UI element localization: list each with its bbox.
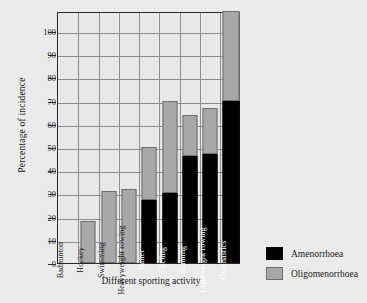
x-axis-title: Different sporting activity [46,276,256,286]
bar-segment-oligomenorrhoea [162,101,177,194]
y-tick-mark-70 [48,102,56,103]
bar-hockey[interactable]: Hockey [78,13,98,263]
bar-running[interactable]: Running [180,13,200,263]
y-tick-mark-50 [48,148,56,149]
y-tick-mark-80 [48,78,56,79]
bar-heavyweight-rowing[interactable]: Heavyweight rowing [119,13,139,263]
legend-label-oligomenorrhoea: Oligomenorrhoea [291,269,358,279]
bar-group: Badminton Hockey Swimming [58,13,239,263]
bar-ballet[interactable]: Ballet [139,13,159,263]
bar-label-running: Running [175,246,190,274]
plot-area: Badminton Hockey Swimming [57,12,240,264]
bar-lightweight-rowing[interactable]: Lightweight rowing [200,13,220,263]
bar-stack-cycling [162,101,177,263]
y-tick-mark-30 [48,194,56,195]
y-tick-mark-90 [48,55,56,56]
bar-cycling[interactable]: Cycling [160,13,180,263]
y-axis-title: Percentage of incidence [17,35,27,215]
y-tick-mark-60 [48,125,56,126]
bar-stack-ballet [142,147,157,263]
bar-badminton[interactable]: Badminton [58,13,78,263]
y-tick-mark-40 [48,171,56,172]
chart-figure: Percentage of incidence 100 90 80 70 60 … [0,0,367,303]
bar-segment-oligomenorrhoea [183,115,198,157]
bar-label-hockey: Hockey [73,247,88,272]
black-square-swatch-icon [266,247,283,260]
bar-segment-oligomenorrhoea [203,108,218,154]
bar-segment-amenorrhoea [222,101,239,263]
bar-label-swimming: Swimming [94,242,109,278]
bar-label-cycling: Cycling [155,247,170,273]
bar-segment-oligomenorrhoea [222,11,239,101]
y-tick-mark-100 [48,32,56,33]
bar-label-badminton: Badminton [53,242,68,278]
bar-label-ballet: Ballet [134,250,149,270]
legend-item-amenorrhoea: Amenorrhoea [266,247,358,260]
legend-item-oligomenorrhoea: Oligomenorrhoea [266,267,358,280]
legend-label-amenorrhoea: Amenorrhoea [291,249,343,259]
grey-square-swatch-icon [266,267,283,280]
y-tick-mark-20 [48,218,56,219]
bar-segment-oligomenorrhoea [142,147,157,200]
bar-gymnastics[interactable]: Gymnastics [221,13,241,263]
bar-stack-gymnastics [222,11,239,263]
bar-label-gymnastics: Gymnastics [216,241,231,280]
chart-legend: Amenorrhoea Oligomenorrhoea [266,247,358,287]
